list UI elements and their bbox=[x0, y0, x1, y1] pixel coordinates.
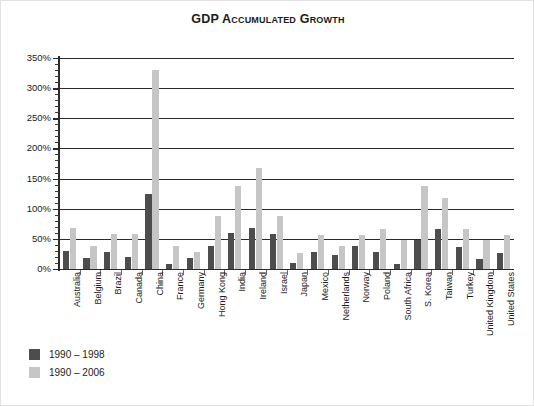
bar bbox=[145, 194, 151, 269]
x-axis-tick-label: Mexico bbox=[321, 272, 330, 301]
bar bbox=[132, 234, 138, 269]
y-axis-tick-label: 150% bbox=[5, 174, 51, 184]
x-axis-tick-label: Brazil bbox=[114, 272, 123, 295]
bar bbox=[290, 263, 296, 269]
x-axis-tick-label: Netherlands bbox=[342, 272, 351, 321]
bar bbox=[318, 235, 324, 269]
x-axis-tick-label: Poland bbox=[383, 272, 392, 300]
x-axis-tick-label: Australia bbox=[73, 272, 82, 307]
bar bbox=[504, 235, 510, 269]
x-axis-tick-label: Turkey bbox=[466, 272, 475, 299]
bar bbox=[380, 229, 386, 269]
bar-group bbox=[59, 58, 80, 269]
bar bbox=[194, 252, 200, 269]
bar-group bbox=[349, 58, 370, 269]
x-axis-tick-label: Japan bbox=[300, 272, 309, 297]
x-axis-tick-label: China bbox=[156, 272, 165, 296]
bar bbox=[104, 252, 110, 269]
bar bbox=[277, 216, 283, 269]
bar bbox=[373, 252, 379, 269]
bar-group bbox=[328, 58, 349, 269]
bar bbox=[352, 246, 358, 269]
bar bbox=[173, 246, 179, 270]
bar-group bbox=[266, 58, 287, 269]
bar bbox=[215, 216, 221, 269]
x-axis-tick-label: Taiwan bbox=[445, 272, 454, 300]
bar bbox=[70, 228, 76, 269]
legend-item: 1990 – 1998 bbox=[29, 349, 105, 360]
bar bbox=[497, 253, 503, 269]
bar-group bbox=[452, 58, 473, 269]
chart-title: GDP Accumulated Growth bbox=[1, 12, 534, 26]
legend-label: 1990 – 2006 bbox=[49, 367, 105, 378]
bar-group bbox=[142, 58, 163, 269]
bar bbox=[297, 253, 303, 269]
x-axis-labels: AustraliaBelgiumBrazilCanadaChinaFranceG… bbox=[59, 272, 514, 340]
bar bbox=[256, 168, 262, 269]
y-axis-tick-label: 250% bbox=[5, 113, 51, 123]
x-axis-tick-label: Belgium bbox=[94, 272, 103, 305]
bar-group bbox=[121, 58, 142, 269]
x-axis-tick-label: United Kingdom bbox=[486, 272, 495, 336]
bar bbox=[456, 247, 462, 269]
x-axis-tick-label: France bbox=[176, 272, 185, 300]
x-axis-tick-label: South Africa bbox=[404, 272, 413, 321]
bar-group bbox=[287, 58, 308, 269]
x-axis-tick-label: Canada bbox=[135, 272, 144, 304]
bar bbox=[228, 233, 234, 269]
bar bbox=[339, 246, 345, 269]
y-axis-tick-label: 100% bbox=[5, 204, 51, 214]
y-axis-tick-label: 300% bbox=[5, 83, 51, 93]
legend-item: 1990 – 2006 bbox=[29, 367, 105, 378]
x-axis-tick-label: Hong Kong bbox=[218, 272, 227, 317]
bar-group bbox=[80, 58, 101, 269]
y-axis-tick-label: 350% bbox=[5, 53, 51, 63]
x-axis-tick-label: Norway bbox=[362, 272, 371, 303]
bar-group bbox=[411, 58, 432, 269]
bar bbox=[111, 234, 117, 269]
bar bbox=[63, 251, 69, 269]
bar bbox=[421, 186, 427, 269]
legend-label: 1990 – 1998 bbox=[49, 349, 105, 360]
bar bbox=[442, 198, 448, 269]
bar-group bbox=[224, 58, 245, 269]
bar bbox=[270, 234, 276, 269]
legend-swatch bbox=[29, 349, 40, 360]
bar bbox=[90, 246, 96, 270]
bar-group bbox=[100, 58, 121, 269]
plot-area bbox=[59, 58, 514, 269]
bar-group bbox=[390, 58, 411, 269]
bar bbox=[187, 258, 193, 269]
bar bbox=[235, 186, 241, 269]
chart-figure: GDP Accumulated Growth 0%50%100%150%200%… bbox=[0, 0, 534, 406]
bar bbox=[125, 257, 131, 269]
bar bbox=[394, 264, 400, 269]
bar-group bbox=[493, 58, 514, 269]
bar bbox=[359, 235, 365, 269]
bar bbox=[83, 258, 89, 269]
y-axis-tick-label: 200% bbox=[5, 143, 51, 153]
y-axis-tick-label: 50% bbox=[5, 234, 51, 244]
bar bbox=[208, 246, 214, 270]
x-axis-tick-label: Israel bbox=[280, 272, 289, 294]
x-axis-tick-label: S. Korea bbox=[424, 272, 433, 307]
bar-group bbox=[204, 58, 225, 269]
bar bbox=[476, 259, 482, 269]
bar bbox=[414, 240, 420, 269]
x-axis-tick-label: Germany bbox=[197, 272, 206, 309]
bar-group bbox=[473, 58, 494, 269]
bar-group bbox=[307, 58, 328, 269]
bar-group bbox=[183, 58, 204, 269]
y-axis-tick bbox=[53, 269, 59, 270]
bar bbox=[435, 229, 441, 269]
bar bbox=[401, 240, 407, 269]
bar bbox=[463, 229, 469, 269]
bar-group bbox=[245, 58, 266, 269]
bar bbox=[483, 240, 489, 269]
bar bbox=[332, 255, 338, 269]
y-axis-labels: 0%50%100%150%200%250%300%350% bbox=[1, 58, 51, 269]
bar-group bbox=[369, 58, 390, 269]
bar bbox=[166, 264, 172, 269]
bar-group bbox=[431, 58, 452, 269]
x-axis-tick-label: India bbox=[238, 272, 247, 292]
